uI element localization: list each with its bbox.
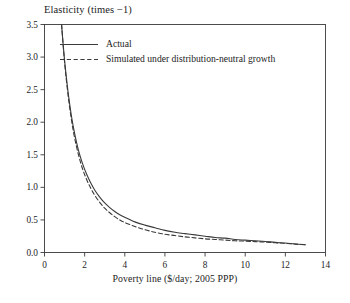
y-axis-tick-label: 3.0: [6, 52, 38, 62]
x-axis-tick-label: 2: [82, 260, 87, 270]
y-axis-tick-label: 1.5: [6, 150, 38, 160]
y-axis-tick-label: 0.5: [6, 215, 38, 225]
y-axis-tick-label: 2.0: [6, 117, 38, 127]
chart-title: Elasticity (times −1): [44, 4, 132, 15]
plot-canvas: [0, 0, 350, 303]
x-axis-title: Poverty line ($/day; 2005 PPP): [0, 273, 350, 284]
legend-label-2: Simulated under distribution-neutral gro…: [106, 53, 275, 64]
x-axis-tick-label: 0: [42, 260, 47, 270]
x-axis-tick-label: 4: [122, 260, 127, 270]
x-axis-tick-label: 10: [241, 260, 250, 270]
elasticity-chart-figure: Elasticity (times −1) Poverty line ($/da…: [0, 0, 350, 303]
legend-label-1: Actual: [106, 38, 132, 49]
x-axis-tick-label: 14: [321, 260, 330, 270]
y-axis-tick-label: 3.5: [6, 20, 38, 30]
y-axis-tick-label: 2.5: [6, 85, 38, 95]
y-axis-tick-label: 0.0: [6, 248, 38, 258]
x-axis-tick-label: 8: [203, 260, 208, 270]
x-axis-tick-label: 6: [163, 260, 168, 270]
y-axis-tick-label: 1.0: [6, 182, 38, 192]
x-axis-tick-label: 12: [281, 260, 290, 270]
